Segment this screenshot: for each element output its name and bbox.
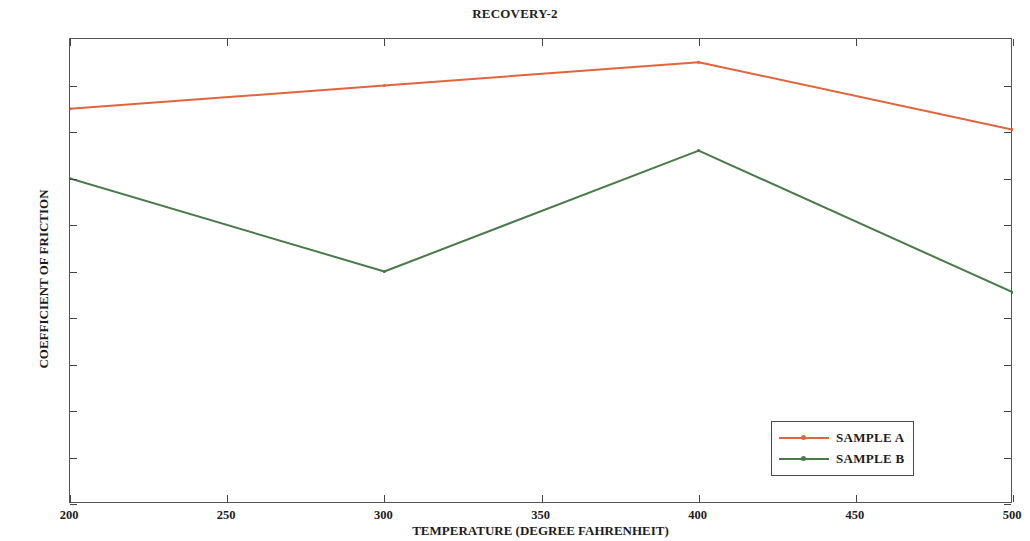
x-axis-tick-label: 450 xyxy=(845,508,864,523)
y-axis-tick-mark xyxy=(1004,225,1011,226)
x-axis-tick-label: 300 xyxy=(374,508,393,523)
x-axis-tick-mark xyxy=(699,39,700,46)
x-axis-tick-mark xyxy=(70,495,71,502)
series-data-point xyxy=(383,84,386,87)
y-axis-tick-mark xyxy=(1004,132,1011,133)
y-axis-tick-mark xyxy=(70,86,77,87)
y-axis-tick-mark xyxy=(1004,318,1011,319)
x-axis-tick-mark xyxy=(384,495,385,502)
legend-item-label: SAMPLE A xyxy=(836,430,905,446)
legend-color-swatch xyxy=(779,453,829,465)
x-axis-tick-mark xyxy=(542,495,543,502)
y-axis-tick-mark xyxy=(70,365,77,366)
series-data-point xyxy=(697,149,700,152)
chart-figure: RECOVERY-2 COEFFICIENT OF FRICTION SAMPL… xyxy=(0,0,1030,541)
series-layer xyxy=(70,61,1013,294)
y-axis-tick-mark xyxy=(70,318,77,319)
series-line xyxy=(70,151,1013,293)
y-axis-tick-mark xyxy=(1004,179,1011,180)
y-axis-tick-mark xyxy=(70,132,77,133)
y-axis-label-container: COEFFICIENT OF FRICTION xyxy=(14,0,34,541)
x-axis-tick-label: 400 xyxy=(688,508,707,523)
x-axis-tick-mark xyxy=(542,39,543,46)
y-axis-tick-mark xyxy=(70,179,77,180)
y-axis-tick-mark xyxy=(70,411,77,412)
y-axis-tick-mark xyxy=(1004,458,1011,459)
y-axis-label: COEFFICIENT OF FRICTION xyxy=(36,149,52,409)
chart-legend: SAMPLE ASAMPLE B xyxy=(771,421,915,476)
x-axis-tick-mark xyxy=(856,39,857,46)
y-axis-tick-mark xyxy=(70,225,77,226)
x-axis-tick-mark xyxy=(1013,495,1014,502)
legend-item[interactable]: SAMPLE A xyxy=(779,427,905,448)
legend-item-label: SAMPLE B xyxy=(836,451,905,467)
series-line xyxy=(70,62,1013,129)
series-data-point xyxy=(697,61,700,64)
y-axis-tick-mark xyxy=(1004,365,1011,366)
x-axis-tick-label: 250 xyxy=(217,508,236,523)
y-axis-tick-mark xyxy=(1004,86,1011,87)
y-axis-tick-mark xyxy=(70,272,77,273)
x-axis-tick-mark xyxy=(699,495,700,502)
x-axis-tick-mark xyxy=(1013,39,1014,46)
x-axis-tick-label: 350 xyxy=(531,508,550,523)
series-data-point xyxy=(70,107,72,110)
legend-color-swatch xyxy=(779,432,829,444)
x-axis-tick-mark xyxy=(227,39,228,46)
y-axis-tick-mark xyxy=(70,504,77,505)
y-axis-tick-mark xyxy=(1004,272,1011,273)
y-axis-tick-mark xyxy=(1004,411,1011,412)
legend-item[interactable]: SAMPLE B xyxy=(779,448,905,469)
x-axis-tick-label: 200 xyxy=(60,508,79,523)
x-axis-tick-label: 500 xyxy=(1003,508,1022,523)
x-axis-tick-mark xyxy=(384,39,385,46)
plot-area: SAMPLE ASAMPLE B xyxy=(69,38,1012,503)
y-axis-tick-mark xyxy=(1004,504,1011,505)
chart-title: RECOVERY-2 xyxy=(0,6,1030,22)
x-axis-label: TEMPERATURE (DEGREE FAHRENHEIT) xyxy=(69,523,1012,539)
x-axis-tick-mark xyxy=(856,495,857,502)
series-data-point xyxy=(383,270,386,273)
x-axis-tick-mark xyxy=(70,39,71,46)
y-axis-tick-mark xyxy=(70,458,77,459)
x-axis-tick-mark xyxy=(227,495,228,502)
